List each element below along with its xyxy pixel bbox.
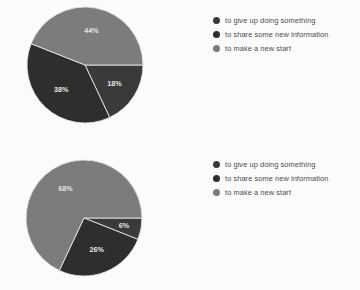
pie-chart-1: 18%38%44% [25, 5, 145, 125]
circle-marker-icon-2 [213, 45, 220, 52]
chart-block-1: 18%38%44% to give up doing something to … [0, 0, 360, 145]
circle-marker-icon-0 [213, 17, 220, 24]
circle-marker-icon-1 [213, 31, 220, 38]
circle-marker-icon-0 [213, 161, 220, 168]
pie-chart-figure: 18%38%44% to give up doing something to … [0, 0, 360, 290]
legend-item-1[interactable]: to share some new information [213, 28, 358, 41]
pie-chart-1-svg: 18%38%44% [25, 5, 145, 125]
legend-item-label-0: to give up doing something [225, 160, 315, 169]
legend-item-2[interactable]: to make a new start [213, 186, 358, 199]
pie-chart-2: 6%26%68% [24, 158, 144, 278]
pie-slice-label: 26% [90, 245, 105, 254]
legend-item-label-0: to give up doing something [225, 16, 315, 25]
pie-slice-label: 18% [107, 79, 122, 88]
pie-slices [26, 160, 142, 276]
legend-item-0[interactable]: to give up doing something [213, 14, 358, 27]
legend-item-label-2: to make a new start [225, 44, 291, 53]
legend-item-label-1: to share some new information [225, 30, 328, 39]
chart-block-2: 6%26%68% to give up doing something to s… [0, 145, 360, 290]
legend-item-2[interactable]: to make a new start [213, 42, 358, 55]
legend-item-1[interactable]: to share some new information [213, 172, 358, 185]
legend-1: to give up doing something to share some… [213, 14, 358, 56]
pie-slices [27, 7, 143, 123]
legend-item-0[interactable]: to give up doing something [213, 158, 358, 171]
pie-slice-label: 44% [84, 26, 99, 35]
legend-item-label-2: to make a new start [225, 188, 291, 197]
pie-slice-label: 38% [54, 85, 69, 94]
circle-marker-icon-1 [213, 175, 220, 182]
pie-chart-2-svg: 6%26%68% [24, 158, 144, 278]
circle-marker-icon-2 [213, 189, 220, 196]
pie-slice-label: 6% [119, 221, 130, 230]
legend-item-label-1: to share some new information [225, 174, 328, 183]
pie-slice-label: 68% [58, 184, 73, 193]
legend-2: to give up doing something to share some… [213, 158, 358, 200]
